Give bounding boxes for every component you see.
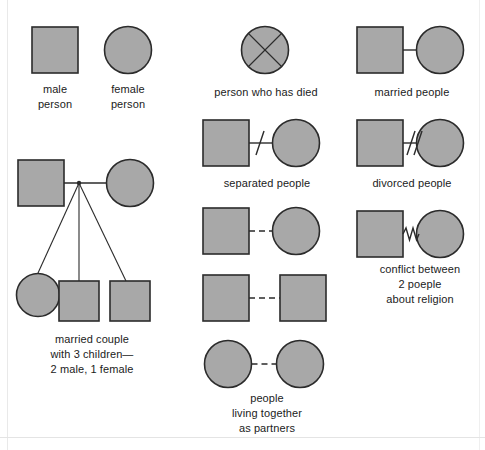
child-male-square-1 <box>59 281 99 321</box>
partners-female-circle-a <box>273 208 320 255</box>
partners-male-square-b1 <box>203 275 249 321</box>
partners-male-square-a <box>203 208 249 254</box>
genogram-figure: .shp { fill: #a8a8a8; stroke: #2b2b2b; s… <box>0 0 485 450</box>
caption-conflict-about-religion: conflict between 2 poeple about religion <box>362 262 478 307</box>
married-male-square <box>357 27 403 73</box>
caption-separated-people: separated people <box>200 176 334 191</box>
divorced-male-square <box>357 120 403 166</box>
conflict-male-square <box>357 211 403 257</box>
married-female-circle <box>417 27 464 74</box>
caption-married-couple-with-children: married couple with 3 children— 2 male, … <box>12 332 172 377</box>
conflict-female-circle <box>417 211 464 258</box>
child-female-circle <box>17 274 60 317</box>
genogram-page: .shp { fill: #a8a8a8; stroke: #2b2b2b; s… <box>0 0 485 450</box>
caption-male-person: male person <box>22 82 88 112</box>
caption-divorced-people: divorced people <box>348 176 476 191</box>
caption-female-person: female person <box>95 82 161 112</box>
child-male-square-2 <box>110 281 150 321</box>
caption-living-together-partners: people living together as partners <box>194 391 340 436</box>
separated-female-circle <box>273 120 320 167</box>
family-mother-circle <box>107 160 154 207</box>
male-person-square <box>32 27 78 73</box>
family-father-square <box>18 160 64 206</box>
partners-female-circle-c2 <box>277 341 324 388</box>
caption-person-who-has-died: person who has died <box>196 85 336 100</box>
partners-male-square-b2 <box>280 275 326 321</box>
partners-female-circle-c1 <box>205 341 252 388</box>
female-person-circle <box>105 27 152 74</box>
caption-married-people: married people <box>348 85 476 100</box>
divorced-female-circle <box>417 120 464 167</box>
separated-male-square <box>203 120 249 166</box>
